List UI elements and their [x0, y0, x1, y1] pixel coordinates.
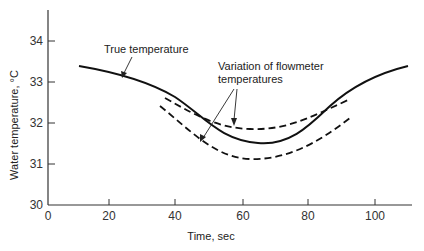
chart: 30 31 32 33 34 0 20 40 60 80 100 Time, s… [0, 0, 424, 251]
variation-label-line1: Variation of flowmeter [218, 60, 324, 72]
y-axis-label: Water temperature, °C [8, 70, 20, 180]
true-temperature-label: True temperature [104, 43, 189, 55]
x-tick-label: 20 [102, 209, 116, 223]
x-tick-label: 0 [45, 209, 52, 223]
x-axis-label: Time, sec [187, 230, 235, 242]
y-tick-label: 32 [30, 116, 44, 130]
x-tick-label: 80 [301, 209, 315, 223]
arrowhead-icon [231, 118, 237, 126]
x-tick-label: 100 [365, 209, 385, 223]
flowmeter-upper-curve [165, 98, 348, 129]
true-temperature-arrow [124, 57, 132, 73]
x-tick-label: 60 [236, 209, 250, 223]
y-tick-label: 30 [30, 198, 44, 212]
y-tick-label: 31 [30, 157, 44, 171]
y-tick-label: 33 [30, 75, 44, 89]
y-tick-label: 34 [30, 34, 44, 48]
variation-arrow-upper [234, 89, 237, 120]
y-ticks: 30 31 32 33 34 [30, 34, 55, 212]
x-ticks: 0 20 40 60 80 100 [45, 199, 386, 223]
variation-label-line2: temperatures [218, 73, 283, 85]
x-tick-label: 40 [168, 209, 182, 223]
